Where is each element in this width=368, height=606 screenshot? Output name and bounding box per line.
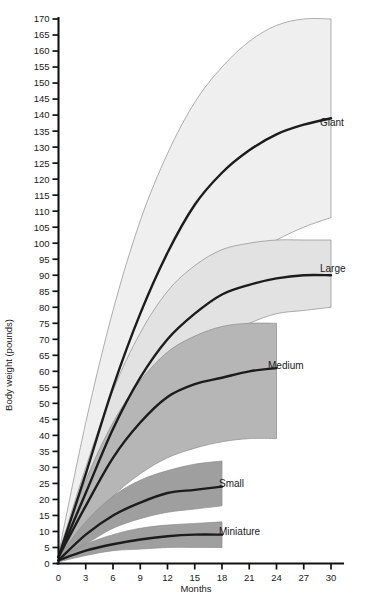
y-tick-label: 10 [39,526,50,537]
y-tick-label: 110 [34,206,49,217]
x-tick-label: 18 [217,572,228,583]
y-tick-label: 35 [39,446,50,457]
x-tick-label: 27 [298,572,309,583]
y-tick-label: 145 [34,93,50,104]
y-tick-label: 130 [34,142,50,153]
y-tick-label: 85 [39,286,50,297]
y-tick-label: 0 [44,558,49,569]
y-tick-label: 95 [39,254,50,265]
y-tick-label: 155 [34,61,50,72]
x-tick-label: 21 [244,572,255,583]
y-tick-label: 60 [39,366,50,377]
y-tick-label: 65 [39,350,50,361]
x-axis: 036912151821242730 [56,564,343,583]
y-tick-label: 170 [34,13,50,24]
y-axis-title: Body weight (pounds) [3,319,14,411]
y-tick-label: 80 [39,302,50,313]
y-tick-label: 105 [34,222,50,233]
x-tick-label: 3 [83,572,88,583]
y-tick-label: 25 [39,478,50,489]
y-tick-label: 45 [39,414,50,425]
y-tick-label: 40 [39,430,50,441]
series-label-large: Large [320,263,346,274]
y-tick-label: 100 [34,238,50,249]
y-tick-label: 165 [34,29,50,40]
series-label-medium: Medium [268,360,304,371]
y-tick-label: 140 [34,109,50,120]
x-tick-label: 30 [326,572,337,583]
y-tick-label: 5 [44,542,49,553]
y-tick-label: 90 [39,270,50,281]
y-tick-label: 50 [39,398,50,409]
y-tick-label: 20 [39,494,50,505]
y-tick-label: 70 [39,334,50,345]
x-tick-label: 15 [189,572,200,583]
y-tick-label: 55 [39,382,50,393]
y-tick-label: 30 [39,462,50,473]
x-tick-label: 0 [56,572,61,583]
y-tick-label: 150 [34,77,50,88]
y-tick-label: 135 [34,126,50,137]
chart-plot-area: 0510152025303540455055606570758085909510… [0,0,368,606]
x-tick-label: 24 [271,572,282,583]
y-tick-label: 75 [39,318,50,329]
y-tick-label: 160 [34,45,50,56]
x-tick-label: 12 [162,572,173,583]
series-label-miniature: Miniature [219,526,261,537]
series-label-small: Small [219,478,244,489]
y-tick-label: 125 [34,158,50,169]
series-label-giant: Giant [320,117,344,128]
x-axis-title: Months [180,583,211,594]
y-tick-label: 115 [34,190,49,201]
growth-chart: 0510152025303540455055606570758085909510… [0,0,368,606]
x-tick-label: 9 [138,572,143,583]
y-tick-label: 15 [39,510,50,521]
y-tick-label: 120 [34,174,50,185]
x-tick-label: 6 [110,572,115,583]
y-axis: 0510152025303540455055606570758085909510… [34,13,59,569]
